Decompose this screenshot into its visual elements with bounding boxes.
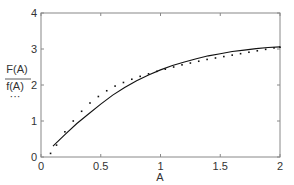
dotted-series-point [273,47,275,49]
y-tick-label: 4 [31,7,37,19]
x-ticks: 00.511.52 [38,13,283,172]
dotted-series-point [81,110,83,112]
dotted-series-point [64,131,66,133]
dotted-series-point [198,60,200,62]
dotted-series-point [181,64,183,66]
dotted-series-point [215,57,217,59]
dotted-series-point [279,46,281,48]
dotted-series-point [106,90,108,92]
dotted-series-point [248,51,250,53]
dotted-series-point [131,78,133,80]
y-tick-label: 1 [31,115,37,127]
dotted-series-point [98,96,100,98]
y-axis-label-dots: ··· [10,90,21,102]
dotted-series-point [50,153,52,155]
y-ticks: 01234 [31,7,280,163]
plot-frame [41,13,280,157]
dotted-series-point [231,54,233,56]
y-tick-label: 0 [31,151,37,163]
dotted-series-point [206,59,208,61]
dotted-series-point [156,71,158,73]
x-tick-label: 2 [277,160,283,172]
dotted-series-point [164,68,166,70]
chart: 00.511.52 01234 A F(A) f(A) ··· [0,0,294,185]
dotted-series-point [256,50,258,52]
x-axis-label: A [156,171,164,183]
x-tick-label: 0 [38,160,44,172]
dotted-series-point [240,53,242,55]
dotted-series-point [139,76,141,78]
y-tick-label: 2 [31,79,37,91]
dotted-series-point [148,73,150,75]
series-line-solid [53,47,280,146]
y-tick-label: 3 [31,43,37,55]
dotted-series-point [173,66,175,68]
dotted-series-point [223,56,225,58]
x-tick-label: 0.5 [93,160,108,172]
dotted-series-point [72,120,74,122]
dotted-series-point [56,144,58,146]
y-axis-label-numerator: F(A) [6,63,27,75]
dotted-series-point [190,62,192,64]
x-tick-label: 1.5 [213,160,228,172]
dotted-series-point [89,102,91,104]
dotted-series-point [123,82,125,84]
dotted-series-point [265,49,267,51]
dotted-series-point [114,85,116,87]
series-group [50,46,281,154]
